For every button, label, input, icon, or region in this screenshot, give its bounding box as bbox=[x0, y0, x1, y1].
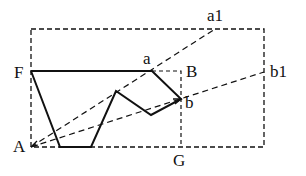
ray-a-to-b1 bbox=[31, 72, 264, 147]
label-b1: b1 bbox=[270, 63, 287, 80]
outer-dashed-rectangle bbox=[31, 29, 264, 147]
label-a1: a1 bbox=[207, 7, 223, 24]
label-F: F bbox=[14, 64, 23, 81]
label-b: b bbox=[185, 94, 194, 111]
label-a: a bbox=[143, 50, 151, 67]
diagram-canvas: F A a B b G a1 b1 bbox=[0, 0, 306, 176]
label-G: G bbox=[173, 152, 185, 169]
label-A: A bbox=[13, 138, 25, 155]
diagram-svg bbox=[0, 0, 306, 176]
arrow-at-a-icon bbox=[31, 141, 38, 147]
ray-a-to-a1 bbox=[31, 29, 215, 147]
inner-dashed-lines bbox=[152, 71, 181, 147]
label-B: B bbox=[186, 63, 197, 80]
solid-polygon bbox=[31, 71, 181, 147]
